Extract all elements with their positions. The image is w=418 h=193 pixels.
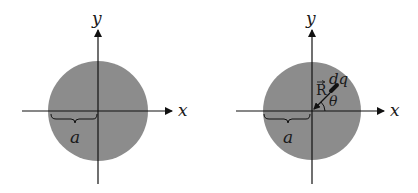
y-axis-label: y	[91, 8, 102, 28]
dq-label: dq	[329, 70, 348, 88]
x-axis-label: x	[390, 100, 400, 120]
radius-label: a	[70, 127, 80, 147]
r-vector-label: R	[316, 82, 327, 98]
y-axis-label: y	[305, 8, 316, 28]
left-figure: x y a	[22, 8, 188, 184]
right-figure: R dq θ x y a	[236, 8, 400, 184]
x-axis-label: x	[178, 100, 188, 120]
theta-label: θ	[329, 93, 338, 109]
radius-label: a	[283, 127, 293, 147]
